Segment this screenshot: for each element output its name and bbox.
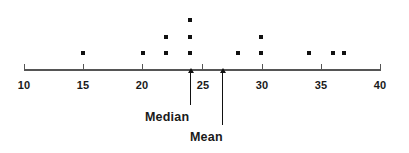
median-arrow-icon bbox=[190, 72, 191, 105]
x-axis-line bbox=[24, 69, 381, 71]
dot-plot-figure: 10 15 20 25 30 35 40 Median Mean bbox=[0, 0, 409, 153]
tick-label-30: 30 bbox=[247, 79, 277, 91]
data-dot bbox=[236, 51, 240, 55]
tick-label-10: 10 bbox=[9, 79, 39, 91]
tick-label-35: 35 bbox=[306, 79, 336, 91]
data-dot bbox=[259, 51, 263, 55]
data-dot bbox=[81, 51, 85, 55]
tick-mark-35 bbox=[321, 64, 322, 69]
data-dot bbox=[331, 51, 335, 55]
tick-label-40: 40 bbox=[365, 79, 395, 91]
tick-mark-20 bbox=[142, 64, 143, 69]
data-dot bbox=[164, 51, 168, 55]
tick-mark-40 bbox=[380, 64, 381, 69]
tick-mark-15 bbox=[83, 64, 84, 69]
data-dot bbox=[188, 18, 192, 22]
tick-mark-10 bbox=[24, 64, 25, 69]
tick-label-15: 15 bbox=[68, 79, 98, 91]
data-dot bbox=[141, 51, 145, 55]
data-dot bbox=[307, 51, 311, 55]
data-dot bbox=[188, 51, 192, 55]
median-label: Median bbox=[145, 110, 189, 124]
tick-mark-30 bbox=[262, 64, 263, 69]
mean-label: Mean bbox=[190, 130, 223, 144]
data-dot bbox=[259, 35, 263, 39]
data-dot bbox=[342, 51, 346, 55]
tick-label-25: 25 bbox=[188, 79, 218, 91]
mean-arrow-icon bbox=[222, 72, 223, 125]
tick-mark-25 bbox=[202, 64, 203, 69]
tick-label-20: 20 bbox=[127, 79, 157, 91]
data-dot bbox=[188, 35, 192, 39]
data-dot bbox=[164, 35, 168, 39]
